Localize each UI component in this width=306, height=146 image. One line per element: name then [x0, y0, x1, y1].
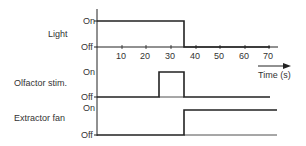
- time-axis-label: Time (s): [258, 70, 291, 80]
- tick-60: 60: [239, 51, 249, 61]
- tick-70: 70: [263, 51, 273, 61]
- tick-10: 10: [116, 51, 126, 61]
- olfactor-off-label: Off: [81, 92, 93, 102]
- timing-diagram: Light On Off 10 20 30 40 50 60 70 Time (…: [0, 0, 306, 146]
- channel-label-light: Light: [48, 29, 68, 39]
- light-off-label: Off: [81, 42, 93, 52]
- tick-40: 40: [190, 51, 200, 61]
- tick-30: 30: [165, 51, 175, 61]
- extractor-on-label: On: [83, 103, 95, 113]
- tick-20: 20: [140, 51, 150, 61]
- channel-label-extractor: Extractor fan: [14, 113, 65, 123]
- extractor-trace: [97, 110, 277, 135]
- olfactor-on-label: On: [83, 67, 95, 77]
- channel-label-olfactor: Olfactor stim.: [14, 78, 67, 88]
- tick-50: 50: [214, 51, 224, 61]
- light-on-label: On: [83, 16, 95, 26]
- olfactor-trace: [97, 72, 270, 97]
- extractor-off-label: Off: [81, 130, 93, 140]
- time-arrow-icon: [283, 63, 291, 69]
- light-trace: [97, 21, 270, 47]
